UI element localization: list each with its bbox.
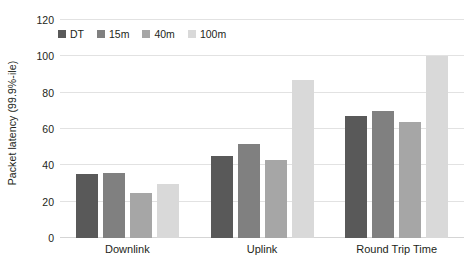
- bar-group: [76, 20, 179, 238]
- bar: [211, 156, 233, 238]
- bars-layer: [60, 20, 464, 238]
- legend-swatch-icon: [188, 30, 196, 38]
- legend-label: 15m: [109, 29, 129, 40]
- legend-item: DT: [58, 29, 84, 40]
- y-axis-tick-labels: 020406080100120: [0, 20, 54, 238]
- bar: [399, 122, 421, 238]
- bar: [265, 160, 287, 238]
- legend-swatch-icon: [58, 30, 66, 38]
- bar-group: [345, 20, 448, 238]
- x-axis-tick-labels: DownlinkUplinkRound Trip Time: [60, 243, 464, 265]
- y-axis-tick-label: 0: [2, 233, 54, 244]
- bar-group: [211, 20, 314, 238]
- legend-label: DT: [70, 29, 84, 40]
- bar: [372, 111, 394, 238]
- legend-item: 15m: [97, 29, 129, 40]
- bar: [103, 173, 125, 238]
- bar: [292, 80, 314, 238]
- y-axis-tick-label: 80: [2, 87, 54, 98]
- y-axis-tick-label: 40: [2, 160, 54, 171]
- legend-swatch-icon: [97, 30, 105, 38]
- bar: [426, 56, 448, 238]
- bar: [130, 193, 152, 238]
- legend-label: 100m: [200, 29, 226, 40]
- x-axis-tick-label: Downlink: [105, 243, 150, 255]
- legend-swatch-icon: [142, 30, 150, 38]
- y-axis-tick-label: 100: [2, 51, 54, 62]
- bar: [76, 174, 98, 238]
- bar: [238, 144, 260, 238]
- y-axis-tick-label: 120: [2, 15, 54, 26]
- plot-area: [60, 20, 464, 238]
- y-axis-tick-label: 20: [2, 196, 54, 207]
- legend-item: 100m: [188, 29, 226, 40]
- y-axis-tick-label: 60: [2, 124, 54, 135]
- bar-chart: Packet latency (99.9%-ile) 0204060801001…: [0, 0, 472, 271]
- x-axis-tick-label: Round Trip Time: [356, 243, 437, 255]
- chart-legend: DT15m40m100m: [58, 29, 226, 40]
- bar: [157, 184, 179, 239]
- legend-item: 40m: [142, 29, 174, 40]
- bar: [345, 116, 367, 238]
- x-axis-tick-label: Uplink: [247, 243, 278, 255]
- legend-label: 40m: [154, 29, 174, 40]
